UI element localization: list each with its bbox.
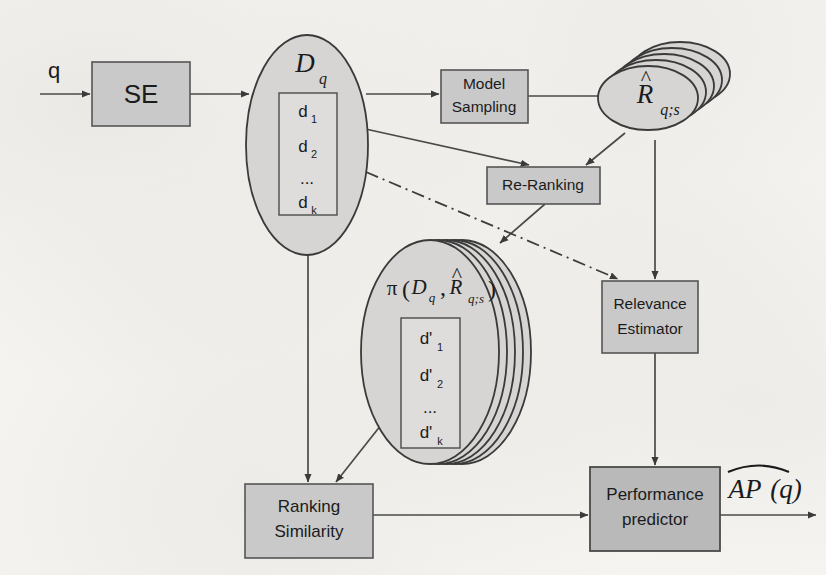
dq-label: D bbox=[294, 48, 315, 78]
ranking-similarity-box[interactable] bbox=[245, 484, 373, 558]
pi-arg1: D bbox=[410, 275, 426, 299]
dq-item-2-sub: 2 bbox=[311, 148, 317, 160]
performance-predictor-node[interactable]: Performance predictor bbox=[590, 467, 720, 551]
dq-label-subscript: q bbox=[319, 70, 327, 88]
output-suffix: (q) bbox=[770, 474, 801, 504]
pi-item-1-label: d' bbox=[420, 329, 433, 348]
edge-rqs-to-re-ranking bbox=[586, 133, 625, 165]
pi-item-1-sub: 1 bbox=[437, 341, 443, 353]
performance-predictor-label-line2: predictor bbox=[622, 510, 688, 529]
output-label: AP bbox=[727, 474, 762, 504]
dq-node[interactable]: D q d 1 d 2 ... d k bbox=[246, 35, 368, 255]
pi-arg1-sub: q bbox=[429, 290, 436, 305]
re-ranking-label: Re-Ranking bbox=[502, 176, 584, 193]
relevance-estimator-node[interactable]: Relevance Estimator bbox=[602, 281, 698, 353]
se-node[interactable]: SE bbox=[92, 62, 190, 126]
dq-item-k-sub: k bbox=[311, 204, 317, 216]
pi-item-k-label: d' bbox=[420, 423, 433, 442]
pi-arg2-sub: q;s bbox=[468, 291, 484, 306]
rqs-node[interactable]: ^ R q;s bbox=[598, 42, 730, 130]
edge-dq-to-re-ranking bbox=[361, 128, 529, 165]
model-sampling-label-line1: Model bbox=[463, 75, 505, 92]
pi-item-2-sub: 2 bbox=[437, 378, 443, 390]
pi-item-ellipsis: ... bbox=[423, 398, 437, 417]
edge-pi-stack-to-ranking-similarity bbox=[336, 420, 385, 482]
performance-predictor-label-line1: Performance bbox=[606, 485, 703, 504]
relevance-estimator-box[interactable] bbox=[602, 281, 698, 353]
dq-item-ellipsis: ... bbox=[300, 169, 314, 188]
pi-comma: , bbox=[440, 274, 446, 300]
re-ranking-node[interactable]: Re-Ranking bbox=[487, 167, 600, 204]
dq-item-list bbox=[279, 93, 337, 215]
flow-diagram: q SE D q d 1 d 2 ... d k bbox=[0, 0, 826, 575]
pi-stack-node[interactable]: π ( D q , ^ R q;s ) d' 1 d' 2 ... d' bbox=[361, 240, 531, 464]
pi-close-paren: ) bbox=[488, 276, 496, 302]
edge-re-ranking-to-pi-stack bbox=[500, 204, 545, 243]
dq-item-k-label: d bbox=[298, 193, 307, 212]
pi-arg2: R bbox=[449, 275, 463, 299]
relevance-estimator-label-line1: Relevance bbox=[613, 295, 686, 312]
dq-item-2-label: d bbox=[298, 137, 307, 156]
pi-open-paren: ( bbox=[402, 276, 410, 302]
ranking-similarity-node[interactable]: Ranking Similarity bbox=[245, 484, 373, 558]
output-hat-icon bbox=[728, 466, 789, 473]
performance-predictor-box[interactable] bbox=[590, 467, 720, 551]
ranking-similarity-label-line2: Similarity bbox=[275, 522, 344, 541]
model-sampling-node[interactable]: Model Sampling bbox=[441, 70, 528, 123]
pi-item-2-label: d' bbox=[420, 366, 433, 385]
pi-symbol: π bbox=[387, 276, 398, 300]
model-sampling-label-line2: Sampling bbox=[452, 98, 517, 115]
rqs-label: R bbox=[636, 79, 654, 109]
dq-item-1-label: d bbox=[298, 102, 307, 121]
ranking-similarity-label-line1: Ranking bbox=[278, 497, 340, 516]
output-label-group: AP (q) bbox=[727, 466, 802, 505]
dq-item-1-sub: 1 bbox=[311, 113, 317, 125]
relevance-estimator-label-line2: Estimator bbox=[617, 320, 682, 337]
diagram-canvas: q SE D q d 1 d 2 ... d k bbox=[0, 0, 826, 575]
pi-item-k-sub: k bbox=[437, 435, 443, 447]
query-input-label: q bbox=[48, 58, 60, 83]
rqs-label-subscript: q;s bbox=[660, 101, 680, 119]
se-label: SE bbox=[124, 79, 159, 109]
